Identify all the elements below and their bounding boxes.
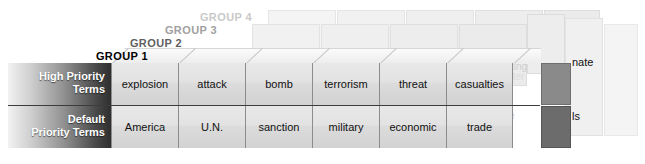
partial-cell-top-label: nate xyxy=(572,56,593,68)
term-cell[interactable]: explosion xyxy=(111,63,178,105)
partial-cell-bottom xyxy=(541,106,571,148)
row-label-line2: Priority Terms xyxy=(8,126,105,139)
term-cell[interactable]: America xyxy=(111,106,178,148)
row-label-line1: High Priority xyxy=(8,70,105,83)
term-cell[interactable]: terrorism xyxy=(312,63,379,105)
term-cell[interactable]: economic xyxy=(379,106,446,148)
row-label-line1: Default xyxy=(8,113,105,126)
row-label-default-priority: Default Priority Terms xyxy=(8,106,111,148)
term-cell[interactable]: trade xyxy=(446,106,513,148)
row-label-high-priority: High Priority Terms xyxy=(8,63,111,105)
partial-cell-bottom-label: ls xyxy=(572,110,580,122)
term-cell[interactable]: sanction xyxy=(245,106,312,148)
table-row: Default Priority Terms America U.N. sanc… xyxy=(8,106,540,148)
term-cell[interactable]: bomb xyxy=(245,63,312,105)
diagram-canvas: poli gas kil Anth retrib drinking water … xyxy=(0,0,645,164)
group-label-4: GROUP 4 xyxy=(0,11,252,24)
term-cell[interactable]: threat xyxy=(379,63,446,105)
term-cell[interactable]: attack xyxy=(178,63,245,105)
partial-cell-top xyxy=(541,63,571,105)
row-label-line2: Terms xyxy=(8,83,105,96)
group-label-2: GROUP 2 xyxy=(0,37,182,50)
group-label-1: GROUP 1 xyxy=(0,50,148,63)
side-panel-far-bottom xyxy=(604,24,638,136)
term-cell[interactable]: military xyxy=(312,106,379,148)
group-label-3: GROUP 3 xyxy=(0,24,217,37)
priority-terms-table: High Priority Terms explosion attack bom… xyxy=(8,63,540,148)
term-cell[interactable]: U.N. xyxy=(178,106,245,148)
term-cell[interactable]: casualties xyxy=(446,63,513,105)
table-row: High Priority Terms explosion attack bom… xyxy=(8,63,540,105)
